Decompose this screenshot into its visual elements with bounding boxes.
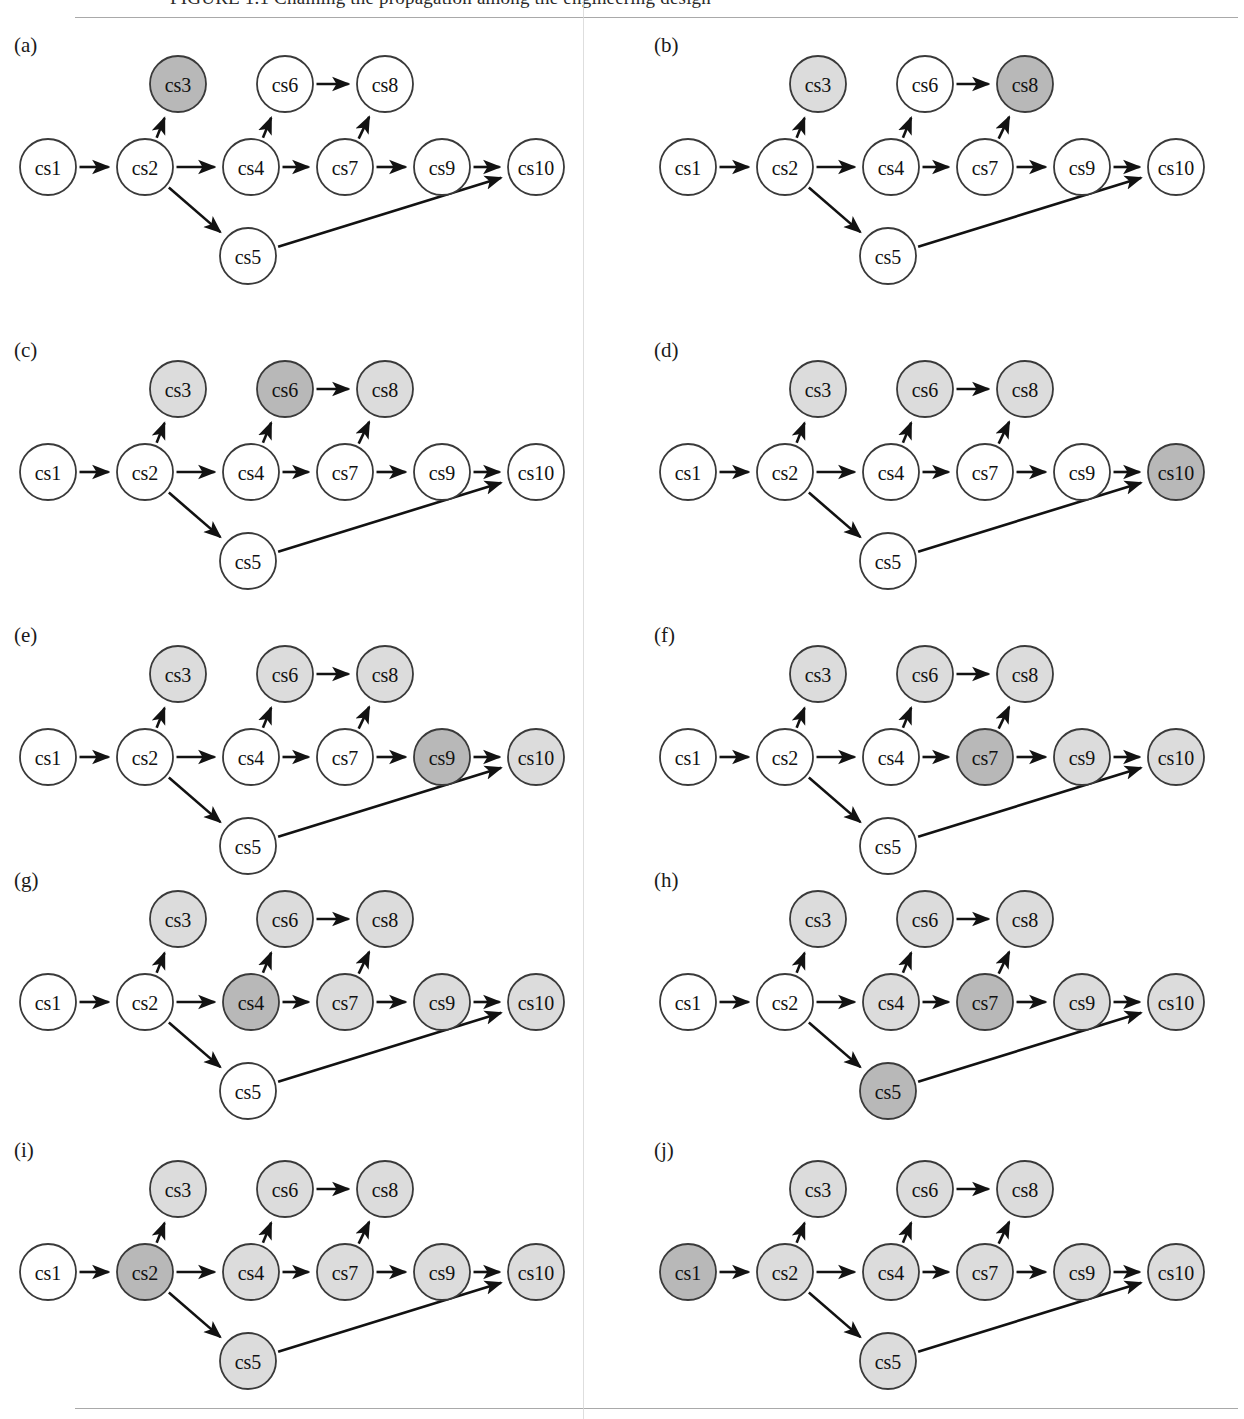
graph-node-cs4[interactable]: cs4: [223, 139, 279, 195]
graph-node-cs1[interactable]: cs1: [660, 139, 716, 195]
graph-node-cs5[interactable]: cs5: [220, 1063, 276, 1119]
graph-node-cs3[interactable]: cs3: [790, 891, 846, 947]
graph-node-cs10[interactable]: cs10: [508, 1244, 564, 1300]
graph-node-cs2[interactable]: cs2: [117, 974, 173, 1030]
graph-node-cs10[interactable]: cs10: [508, 444, 564, 500]
graph-node-cs7[interactable]: cs7: [317, 444, 373, 500]
graph-node-cs8[interactable]: cs8: [997, 891, 1053, 947]
graph-node-cs6[interactable]: cs6: [257, 646, 313, 702]
graph-node-cs1[interactable]: cs1: [20, 139, 76, 195]
graph-node-cs9[interactable]: cs9: [1054, 139, 1110, 195]
graph-node-cs8[interactable]: cs8: [357, 646, 413, 702]
graph-node-cs7[interactable]: cs7: [317, 139, 373, 195]
graph-node-cs7[interactable]: cs7: [957, 729, 1013, 785]
graph-node-cs3[interactable]: cs3: [150, 56, 206, 112]
graph-node-cs6[interactable]: cs6: [897, 361, 953, 417]
graph-node-cs5[interactable]: cs5: [860, 1333, 916, 1389]
graph-node-cs8[interactable]: cs8: [357, 891, 413, 947]
graph-node-cs2[interactable]: cs2: [757, 1244, 813, 1300]
graph-node-cs7[interactable]: cs7: [957, 974, 1013, 1030]
graph-node-cs6[interactable]: cs6: [897, 891, 953, 947]
graph-node-cs1[interactable]: cs1: [20, 974, 76, 1030]
graph-node-cs1[interactable]: cs1: [20, 729, 76, 785]
graph-node-cs5[interactable]: cs5: [860, 1063, 916, 1119]
graph-node-cs7[interactable]: cs7: [957, 139, 1013, 195]
graph-node-cs10[interactable]: cs10: [1148, 1244, 1204, 1300]
graph-node-cs2[interactable]: cs2: [117, 729, 173, 785]
graph-node-cs6[interactable]: cs6: [257, 891, 313, 947]
graph-node-cs10[interactable]: cs10: [1148, 139, 1204, 195]
graph-node-cs1[interactable]: cs1: [20, 1244, 76, 1300]
graph-node-cs5[interactable]: cs5: [220, 228, 276, 284]
graph-node-cs1[interactable]: cs1: [660, 974, 716, 1030]
graph-node-cs7[interactable]: cs7: [957, 444, 1013, 500]
graph-node-cs9[interactable]: cs9: [1054, 444, 1110, 500]
graph-node-cs1[interactable]: cs1: [660, 444, 716, 500]
graph-node-cs10[interactable]: cs10: [508, 139, 564, 195]
graph-node-cs8[interactable]: cs8: [997, 56, 1053, 112]
graph-node-cs9[interactable]: cs9: [414, 139, 470, 195]
graph-node-cs9[interactable]: cs9: [414, 974, 470, 1030]
graph-node-cs6[interactable]: cs6: [897, 1161, 953, 1217]
graph-node-cs8[interactable]: cs8: [357, 361, 413, 417]
graph-node-cs9[interactable]: cs9: [414, 729, 470, 785]
graph-node-cs4[interactable]: cs4: [863, 1244, 919, 1300]
graph-node-cs5[interactable]: cs5: [860, 228, 916, 284]
graph-node-cs4[interactable]: cs4: [863, 444, 919, 500]
graph-node-cs8[interactable]: cs8: [997, 646, 1053, 702]
graph-node-cs3[interactable]: cs3: [790, 56, 846, 112]
graph-node-cs8[interactable]: cs8: [997, 361, 1053, 417]
graph-node-cs10[interactable]: cs10: [1148, 444, 1204, 500]
graph-node-cs4[interactable]: cs4: [223, 974, 279, 1030]
graph-node-cs7[interactable]: cs7: [957, 1244, 1013, 1300]
node-label-cs10: cs10: [518, 747, 555, 769]
graph-node-cs1[interactable]: cs1: [660, 729, 716, 785]
graph-edge-cs2-to-cs3: [797, 423, 805, 443]
graph-node-cs1[interactable]: cs1: [660, 1244, 716, 1300]
graph-node-cs6[interactable]: cs6: [897, 56, 953, 112]
graph-node-cs2[interactable]: cs2: [757, 139, 813, 195]
graph-node-cs1[interactable]: cs1: [20, 444, 76, 500]
graph-node-cs3[interactable]: cs3: [150, 891, 206, 947]
graph-node-cs6[interactable]: cs6: [257, 1161, 313, 1217]
graph-node-cs3[interactable]: cs3: [150, 1161, 206, 1217]
graph-node-cs9[interactable]: cs9: [414, 1244, 470, 1300]
graph-node-cs9[interactable]: cs9: [1054, 729, 1110, 785]
graph-node-cs2[interactable]: cs2: [117, 139, 173, 195]
graph-node-cs3[interactable]: cs3: [790, 646, 846, 702]
graph-node-cs7[interactable]: cs7: [317, 1244, 373, 1300]
graph-node-cs3[interactable]: cs3: [150, 361, 206, 417]
graph-node-cs4[interactable]: cs4: [863, 974, 919, 1030]
graph-node-cs4[interactable]: cs4: [223, 444, 279, 500]
graph-node-cs10[interactable]: cs10: [1148, 729, 1204, 785]
graph-node-cs4[interactable]: cs4: [863, 139, 919, 195]
graph-node-cs6[interactable]: cs6: [257, 56, 313, 112]
graph-node-cs10[interactable]: cs10: [508, 729, 564, 785]
graph-node-cs8[interactable]: cs8: [997, 1161, 1053, 1217]
graph-node-cs5[interactable]: cs5: [860, 533, 916, 589]
graph-node-cs9[interactable]: cs9: [1054, 1244, 1110, 1300]
graph-node-cs9[interactable]: cs9: [414, 444, 470, 500]
graph-node-cs8[interactable]: cs8: [357, 1161, 413, 1217]
graph-node-cs8[interactable]: cs8: [357, 56, 413, 112]
graph-node-cs9[interactable]: cs9: [1054, 974, 1110, 1030]
graph-node-cs5[interactable]: cs5: [220, 1333, 276, 1389]
graph-node-cs10[interactable]: cs10: [508, 974, 564, 1030]
graph-node-cs2[interactable]: cs2: [117, 444, 173, 500]
graph-node-cs2[interactable]: cs2: [757, 974, 813, 1030]
graph-node-cs2[interactable]: cs2: [117, 1244, 173, 1300]
graph-node-cs2[interactable]: cs2: [757, 444, 813, 500]
graph-node-cs3[interactable]: cs3: [150, 646, 206, 702]
graph-node-cs10[interactable]: cs10: [1148, 974, 1204, 1030]
graph-node-cs3[interactable]: cs3: [790, 361, 846, 417]
graph-node-cs3[interactable]: cs3: [790, 1161, 846, 1217]
graph-node-cs7[interactable]: cs7: [317, 729, 373, 785]
graph-node-cs6[interactable]: cs6: [897, 646, 953, 702]
graph-node-cs4[interactable]: cs4: [863, 729, 919, 785]
graph-node-cs7[interactable]: cs7: [317, 974, 373, 1030]
graph-node-cs4[interactable]: cs4: [223, 1244, 279, 1300]
graph-node-cs2[interactable]: cs2: [757, 729, 813, 785]
graph-node-cs6[interactable]: cs6: [257, 361, 313, 417]
graph-node-cs4[interactable]: cs4: [223, 729, 279, 785]
graph-node-cs5[interactable]: cs5: [220, 533, 276, 589]
